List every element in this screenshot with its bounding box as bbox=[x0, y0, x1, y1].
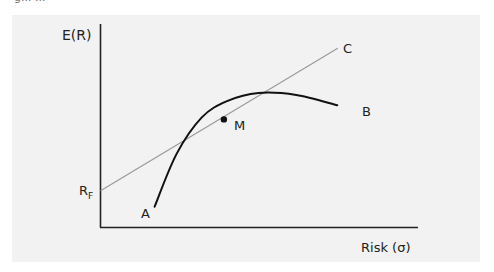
x-axis-label-text: Risk (σ) bbox=[361, 240, 410, 255]
frontier-end-label: B bbox=[362, 104, 371, 119]
frontier-start-label: A bbox=[141, 206, 150, 221]
series-layer bbox=[101, 48, 337, 206]
cml-end-label: C bbox=[343, 41, 352, 56]
risk-free-label: RF bbox=[79, 183, 93, 201]
market-portfolio-point bbox=[221, 116, 227, 122]
market-portfolio-label: M bbox=[234, 118, 245, 133]
efficient-frontier-curve bbox=[155, 93, 338, 207]
points-layer bbox=[221, 116, 227, 122]
capital-market-line bbox=[101, 48, 337, 190]
x-axis-label: Risk (σ) bbox=[361, 240, 410, 255]
risk-free-label-main: R bbox=[79, 183, 88, 198]
risk-free-label-subscript: F bbox=[88, 191, 93, 201]
cml-diagram: E(R) Risk (σ) RF C A B M bbox=[0, 0, 494, 272]
y-axis-label: E(R) bbox=[62, 27, 92, 43]
